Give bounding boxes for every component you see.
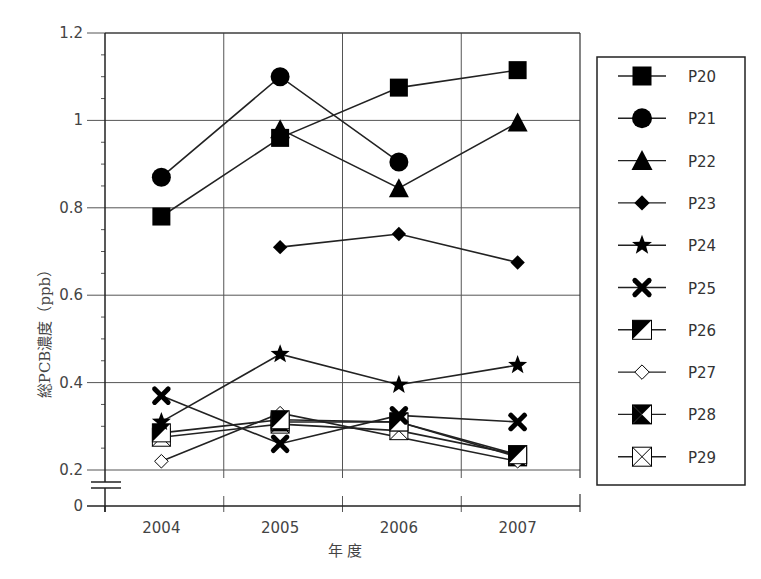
y-tick-label: 1 (73, 111, 83, 129)
filled-circle-marker-icon (632, 108, 652, 128)
series-line-P20 (161, 70, 517, 216)
legend-label: P21 (688, 110, 716, 128)
crossed-square-marker-icon (633, 447, 652, 466)
legend-label: P23 (688, 195, 716, 213)
y-tick-label: 1.2 (59, 24, 83, 42)
half-filled-square-marker-icon (271, 411, 289, 429)
legend-label: P24 (688, 237, 716, 255)
gridlines (87, 33, 580, 478)
legend-label: P26 (688, 322, 716, 340)
filled-circle-marker-icon (389, 152, 408, 171)
series-lines (161, 70, 517, 461)
filled-circle-marker-icon (152, 168, 171, 187)
y-tick-label: 0.2 (59, 461, 83, 479)
filled-square-marker-icon (390, 79, 408, 97)
filled-star-marker-icon (508, 355, 527, 373)
bold-x-marker-icon (273, 437, 287, 451)
half-filled-square-marker-icon (509, 446, 527, 464)
filled-square-marker-icon (509, 61, 527, 79)
half-filled-square-marker-icon (633, 320, 652, 339)
filled-triangle-marker-icon (508, 113, 528, 132)
filled-square-marker-icon (271, 129, 289, 147)
filled-circle-marker-icon (271, 67, 290, 86)
bold-x-marker-icon (155, 389, 169, 403)
filled-star-marker-icon (271, 344, 290, 362)
bowtie-square-marker-icon (633, 405, 652, 424)
legend: P20P21P22P23P24P25P26P27P28P29 (597, 57, 745, 485)
x-tick-label: 2004 (142, 519, 180, 537)
y-tick-label: 0.4 (59, 374, 83, 392)
filled-triangle-marker-icon (389, 178, 409, 197)
legend-label: P20 (688, 68, 716, 86)
legend-label: P22 (688, 153, 716, 171)
filled-diamond-marker-icon (273, 240, 287, 254)
open-diamond-marker-icon (155, 454, 169, 468)
filled-diamond-marker-icon (510, 255, 524, 269)
y-axis-title: 総PCB濃度（ppb） (36, 262, 54, 398)
half-filled-square-marker-icon (152, 424, 170, 442)
filled-square-marker-icon (633, 67, 652, 86)
filled-square-marker-icon (152, 208, 170, 226)
y-tick-label: 0 (73, 497, 83, 515)
axes: 00.20.40.60.811.22004200520062007 (59, 24, 580, 537)
y-tick-label: 0.8 (59, 199, 83, 217)
x-axis-title: 年 度 (328, 542, 363, 560)
series-line-P25 (161, 396, 517, 444)
legend-label: P27 (688, 364, 716, 382)
x-tick-label: 2006 (380, 519, 418, 537)
filled-diamond-marker-icon (392, 227, 406, 241)
y-tick-label: 0.6 (59, 286, 83, 304)
legend-label: P28 (688, 406, 716, 424)
x-tick-label: 2005 (261, 519, 299, 537)
series-markers (152, 61, 528, 468)
x-tick-label: 2007 (499, 519, 537, 537)
legend-label: P29 (688, 449, 716, 467)
legend-label: P25 (688, 280, 716, 298)
filled-star-marker-icon (389, 375, 408, 393)
series-line-P24 (161, 354, 517, 422)
line-chart: 00.20.40.60.811.22004200520062007 総PCB濃度… (0, 0, 761, 579)
